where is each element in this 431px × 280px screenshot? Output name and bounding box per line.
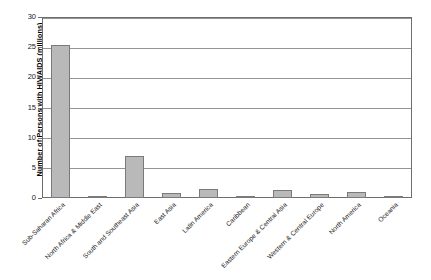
bar-chart: Number of Persons with HIV/AIDS (million… [0, 0, 431, 280]
bar [273, 190, 292, 198]
bar [162, 193, 181, 198]
x-tick-label: East Asia [108, 201, 177, 270]
x-tick-label: South and Southeast Asia [71, 201, 140, 270]
y-tick-mark [38, 47, 42, 48]
x-tick-label: North America [293, 201, 362, 270]
x-tick-label: Caribbean [182, 201, 251, 270]
bar [347, 192, 366, 198]
y-tick-mark [38, 77, 42, 78]
bar [125, 156, 144, 198]
y-tick-label: 30 [10, 13, 36, 21]
bar [199, 189, 218, 198]
x-axis-labels: Sub-Saharan AfricaNorth Africa & Middle … [42, 199, 412, 280]
bar [236, 196, 255, 198]
bars-layer [42, 17, 412, 198]
y-tick-mark [38, 17, 42, 18]
y-tick-mark [38, 138, 42, 139]
x-tick-label: Oceania [330, 201, 399, 270]
x-tick-label: North Africa & Middle East [34, 201, 103, 270]
x-tick-label: Western & Central Europe [256, 201, 325, 270]
x-tick-label: Sub-Saharan Africa [0, 201, 66, 270]
y-tick-label: 25 [10, 43, 36, 51]
bar [88, 196, 107, 198]
y-tick-label: 20 [10, 73, 36, 81]
y-tick-mark [38, 168, 42, 169]
y-tick-label: 15 [10, 104, 36, 112]
y-tick-label: 5 [10, 164, 36, 172]
bar [310, 194, 329, 198]
y-tick-label: 10 [10, 134, 36, 142]
y-tick-mark [38, 108, 42, 109]
x-tick-label: Latin America [145, 201, 214, 270]
x-tick-label: Eastern Europe & Central Asia [219, 201, 288, 270]
bar [51, 45, 70, 198]
bar [384, 196, 403, 198]
y-tick-label: 0 [10, 194, 36, 202]
